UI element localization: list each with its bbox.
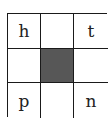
letter-grid: h t p n: [7, 13, 107, 117]
grid-cell-center-shaded: [41, 49, 74, 83]
grid-cell-r2c1: [8, 49, 41, 83]
grid-cell-r2c3: [74, 49, 108, 83]
grid-cell-r3c3: n: [74, 83, 108, 118]
grid-cell-r1c1: h: [8, 14, 41, 49]
grid-cell-r1c2: [41, 14, 74, 49]
grid-cell-r3c1: p: [8, 83, 41, 118]
grid-cell-r3c2: [41, 83, 74, 118]
grid-cell-r1c3: t: [74, 14, 108, 49]
